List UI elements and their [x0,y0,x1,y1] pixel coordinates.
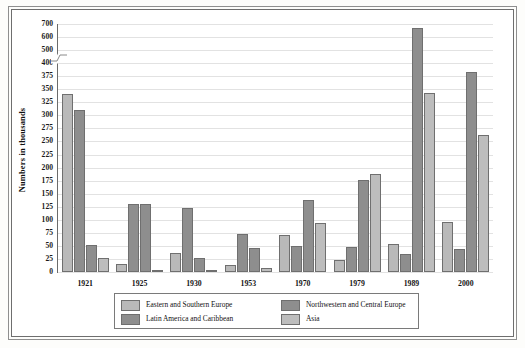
bar[interactable] [334,260,345,272]
legend-swatch-latin-america-caribbean [121,314,140,325]
legend-label-northwestern-central-europe: Northwestern and Central Europe [306,301,406,308]
y-tick-label: 500 [42,46,53,54]
bar[interactable] [412,28,423,272]
x-tick-label: 1921 [77,279,93,288]
bar-group [330,24,384,272]
y-tick-label: 400 [42,59,53,67]
bar[interactable] [182,208,193,272]
bar[interactable] [170,253,181,272]
bar-group [276,24,330,272]
y-tick-label: 325 [42,99,53,107]
legend-row: Eastern and Southern Europe Northwestern… [121,298,412,312]
bar[interactable] [466,72,477,272]
y-tick-label: 200 [42,164,53,172]
bar[interactable] [424,93,435,272]
x-tick-label: 1970 [295,279,311,288]
legend-item-latin-america-caribbean[interactable]: Latin America and Caribbean [121,312,281,326]
legend-swatch-eastern-southern-europe [121,300,140,311]
y-tick-label: 250 [42,138,53,146]
chart-legend: Eastern and Southern Europe Northwestern… [114,293,419,329]
y-tick-label: 150 [42,190,53,198]
y-tick-label: 75 [45,229,53,237]
x-tick-label: 2000 [458,279,474,288]
bar[interactable] [388,244,399,272]
legend-row: Latin America and Caribbean Asia [121,312,412,326]
bar[interactable] [303,200,314,272]
y-tick-label: 50 [45,242,53,250]
y-tick-label: 0 [49,268,53,276]
legend-item-eastern-southern-europe[interactable]: Eastern and Southern Europe [121,298,281,312]
bar[interactable] [400,254,411,272]
bar-group [384,24,438,272]
bar[interactable] [346,247,357,272]
y-tick-label: 350 [42,85,53,93]
x-tick-label: 1930 [186,279,202,288]
bar[interactable] [128,204,139,272]
legend-item-northwestern-central-europe[interactable]: Northwestern and Central Europe [281,298,406,312]
y-tick-label: 700 [42,20,53,28]
y-tick-label: 300 [42,112,53,120]
bar[interactable] [315,223,326,272]
y-axis-title: Numbers in thousands [18,108,27,193]
y-tick-label: 275 [42,125,53,133]
bar[interactable] [279,235,290,272]
x-tick-label: 1953 [241,279,257,288]
legend-swatch-northwestern-central-europe [281,300,300,311]
legend-label-latin-america-caribbean: Latin America and Caribbean [146,315,233,322]
y-tick-label: 600 [42,33,53,41]
bar[interactable] [86,245,97,272]
y-tick-label: 175 [42,177,53,185]
gridline [58,272,493,273]
y-tick-label: 25 [45,255,53,263]
plot-area: 0255075100125150175200225250275300325350… [57,24,493,273]
x-tick-label: 1925 [132,279,148,288]
bar[interactable] [478,135,489,272]
bar[interactable] [74,110,85,272]
bar[interactable] [152,270,163,272]
bar-group [167,24,221,272]
x-tick-label: 1979 [349,279,365,288]
y-tick-label: 125 [42,203,53,211]
bar[interactable] [237,234,248,272]
bar[interactable] [291,246,302,272]
bar[interactable] [454,249,465,272]
bar[interactable] [98,258,109,272]
bar[interactable] [206,270,217,272]
bar[interactable] [370,174,381,272]
bar[interactable] [116,264,127,272]
bar[interactable] [140,204,151,272]
bar[interactable] [225,265,236,272]
bar-group [221,24,275,272]
bar[interactable] [249,248,260,272]
x-tick-label: 1989 [404,279,420,288]
bar[interactable] [194,258,205,272]
y-tick-label: 100 [42,216,53,224]
legend-item-asia[interactable]: Asia [281,312,320,326]
legend-label-asia: Asia [306,315,320,322]
legend-swatch-asia [281,314,300,325]
bar-group [112,24,166,272]
bar[interactable] [62,94,73,272]
bar[interactable] [358,180,369,272]
chart-figure: Numbers in thousands 0255075100125150175… [0,0,525,348]
bar[interactable] [442,222,453,272]
y-tick-label: 375 [42,72,53,80]
bar[interactable] [261,268,272,272]
bar-group [58,24,112,272]
legend-label-eastern-southern-europe: Eastern and Southern Europe [146,301,232,308]
bar-group [439,24,493,272]
y-tick-label: 225 [42,151,53,159]
